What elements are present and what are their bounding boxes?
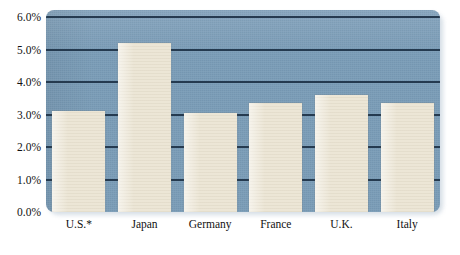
plot-area (46, 10, 440, 212)
x-tick-label: U.S.* (66, 218, 92, 230)
y-tick-label: 3.0% (0, 109, 41, 121)
x-tick-label: Germany (189, 218, 232, 230)
gridline (46, 81, 440, 83)
x-tick-label: U.K. (330, 218, 352, 230)
y-tick-label: 0.0% (0, 206, 41, 218)
bar[interactable] (249, 103, 302, 212)
x-tick-label: Japan (131, 218, 157, 230)
y-tick-label: 1.0% (0, 174, 41, 186)
y-tick-label: 4.0% (0, 76, 41, 88)
y-tick-label: 6.0% (0, 11, 41, 23)
gridline (46, 49, 440, 51)
y-tick-label: 5.0% (0, 44, 41, 56)
bar[interactable] (52, 111, 105, 212)
bar-chart-figure: 0.0%1.0%2.0%3.0%4.0%5.0%6.0% U.S.*JapanG… (0, 0, 460, 255)
x-tick-label: Italy (397, 218, 418, 230)
gridline (46, 16, 440, 18)
y-tick-label: 2.0% (0, 141, 41, 153)
bar[interactable] (381, 103, 434, 212)
bar[interactable] (315, 95, 368, 212)
x-tick-label: France (260, 218, 291, 230)
bar[interactable] (118, 43, 171, 212)
bar[interactable] (184, 113, 237, 212)
